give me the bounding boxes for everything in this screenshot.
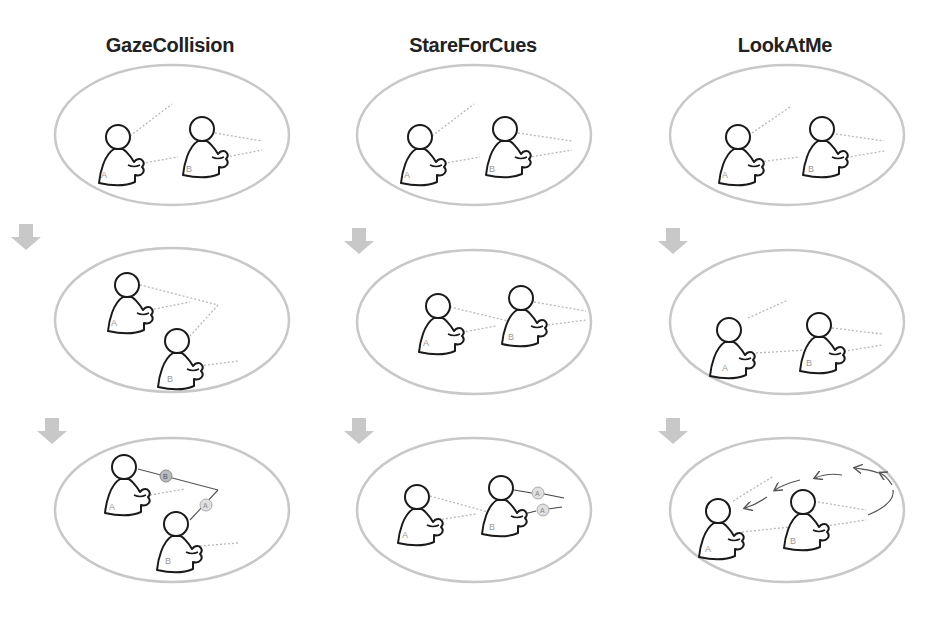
panel-stareforcues-3: A A A B: [357, 438, 591, 582]
down-arrow-icon: [344, 418, 374, 444]
person-label-a: A: [109, 502, 115, 512]
person-icon: [710, 318, 755, 378]
panel-lookatme-3: A B: [670, 438, 904, 582]
down-arrow-icon: [658, 228, 688, 254]
panel-lookatme-2: A B: [670, 250, 904, 394]
token-label: B: [163, 473, 168, 480]
panel-gazecollision-3: B A A B: [55, 438, 289, 582]
person-label-a: A: [722, 363, 728, 373]
person-label-b: B: [808, 164, 814, 174]
person-label-b: B: [489, 164, 495, 174]
token-label: A: [535, 490, 540, 497]
token-label: A: [540, 507, 545, 514]
panel-stareforcues-2: A B: [357, 250, 591, 394]
panel-gazecollision-1: A B: [55, 65, 289, 205]
person-label-a: A: [705, 544, 711, 554]
person-icon: [158, 329, 203, 389]
person-label-b: B: [167, 374, 173, 384]
person-icon: [157, 512, 202, 572]
person-label-b: B: [508, 332, 514, 342]
person-label-b: B: [186, 164, 192, 174]
token-label: A: [203, 502, 208, 509]
person-label-a: A: [101, 170, 107, 180]
diagram-canvas: A B A B B A A B: [0, 0, 944, 628]
person-label-a: A: [423, 338, 429, 348]
person-label-a: A: [402, 530, 408, 540]
down-arrow-icon: [37, 418, 67, 444]
down-arrow-icon: [344, 228, 374, 254]
person-label-b: B: [790, 536, 796, 546]
person-label-b: B: [806, 358, 812, 368]
down-arrow-icon: [658, 418, 688, 444]
person-label-b: B: [489, 522, 495, 532]
person-label-b: B: [165, 556, 171, 566]
person-label-a: A: [722, 170, 728, 180]
person-label-a: A: [111, 318, 117, 328]
curved-arrow-icon: [745, 468, 893, 515]
person-label-a: A: [404, 170, 410, 180]
panel-stareforcues-1: A B: [357, 65, 591, 205]
panel-lookatme-1: A B: [670, 65, 904, 205]
panel-gazecollision-2: A B: [55, 248, 289, 392]
